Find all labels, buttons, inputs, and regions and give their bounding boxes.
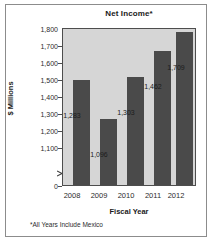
y-tick-label: 0	[28, 183, 58, 190]
bar-2010	[127, 77, 144, 185]
bar-2012	[176, 32, 193, 185]
bar-value-2012: 1,709	[161, 64, 191, 71]
bar-2008	[73, 80, 90, 185]
y-tick-mark	[58, 186, 62, 187]
y-tick-label: 1,200	[28, 128, 58, 135]
y-tick-label: 1,400	[28, 94, 58, 101]
plot-area	[62, 28, 196, 186]
x-tick-label-2009: 2009	[84, 191, 114, 200]
bar-value-2010: 1,303	[111, 109, 141, 116]
bar-value-2009: 1,096	[84, 151, 114, 158]
y-axis-title: $ Millions	[6, 68, 15, 130]
chart-figure: Net Income* $ Millions 1,800 1,700 1,600…	[0, 0, 212, 242]
x-axis-title: Fiscal Year	[62, 207, 196, 216]
y-tick-label: 1,700	[28, 43, 58, 50]
y-tick-label: 1,500	[28, 77, 58, 84]
bar-2011	[154, 51, 171, 185]
chart-footnote: *All Years Include Mexico	[30, 221, 103, 228]
bar-value-2008: 1,283	[57, 112, 87, 119]
y-tick-label: 1,800	[28, 26, 58, 33]
bar-value-2011: 1,462	[138, 83, 168, 90]
y-tick-label: 1,600	[28, 60, 58, 67]
y-tick-label: 1,300	[28, 111, 58, 118]
x-tick-label-2012: 2012	[161, 191, 191, 200]
x-tick-label-2010: 2010	[111, 191, 141, 200]
chart-title: Net Income*	[62, 9, 196, 18]
x-tick-label-2008: 2008	[57, 191, 87, 200]
y-tick-label: 1,100	[28, 145, 58, 152]
y-axis-tick-labels: 1,800 1,700 1,600 1,500 1,400 1,300 1,20…	[26, 0, 58, 242]
